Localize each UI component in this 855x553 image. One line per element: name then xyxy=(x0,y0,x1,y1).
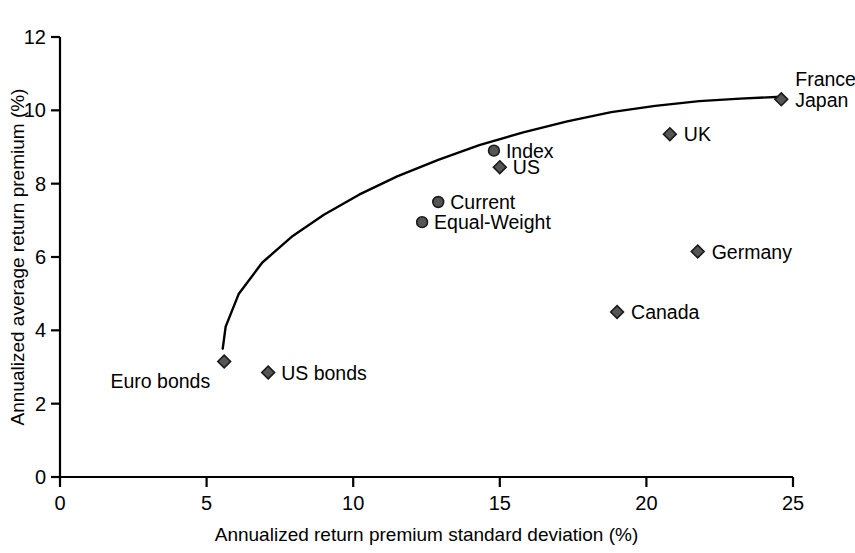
y-tick-label: 4 xyxy=(35,319,46,341)
data-point-label: Euro bonds xyxy=(110,370,210,392)
data-point-label: Equal-Weight xyxy=(434,211,551,233)
y-tick-label: 0 xyxy=(35,466,46,488)
data-point-marker-diamond[interactable] xyxy=(611,306,624,319)
x-tick-label: 20 xyxy=(635,492,657,514)
data-point-label: US bonds xyxy=(281,362,367,384)
scatter-chart-canvas: 0246810120510152025Annualized return pre… xyxy=(0,0,855,553)
data-point-marker-diamond[interactable] xyxy=(262,366,275,379)
data-point-label: US xyxy=(513,156,540,178)
data-point-marker-diamond[interactable] xyxy=(493,161,506,174)
data-point-label: Canada xyxy=(631,301,699,323)
data-point-marker-diamond[interactable] xyxy=(218,355,231,368)
data-point-marker-circle[interactable] xyxy=(433,197,444,208)
x-tick-label: 15 xyxy=(489,492,511,514)
data-point-label: UK xyxy=(684,123,711,145)
data-point-label: France xyxy=(795,68,855,90)
data-point-marker-diamond[interactable] xyxy=(663,128,676,141)
y-tick-label: 12 xyxy=(24,26,46,48)
x-tick-label: 0 xyxy=(54,492,65,514)
data-point-marker-circle[interactable] xyxy=(417,217,428,228)
data-point-marker-diamond[interactable] xyxy=(775,93,788,106)
x-tick-label: 5 xyxy=(201,492,212,514)
y-axis-title: Annualized average return premium (%) xyxy=(7,89,28,426)
data-point-marker-circle[interactable] xyxy=(489,145,500,156)
data-point-label: Japan xyxy=(795,89,848,111)
x-tick-label: 10 xyxy=(342,492,364,514)
y-tick-label: 6 xyxy=(35,246,46,268)
y-tick-label: 2 xyxy=(35,393,46,415)
data-point-label: Germany xyxy=(712,241,792,263)
y-tick-label: 8 xyxy=(35,173,46,195)
x-axis-title: Annualized return premium standard devia… xyxy=(215,524,639,545)
chart-figure: 0246810120510152025Annualized return pre… xyxy=(0,0,855,553)
data-point-marker-diamond[interactable] xyxy=(691,245,704,258)
data-point-label: Current xyxy=(450,191,516,213)
x-tick-label: 25 xyxy=(782,492,804,514)
